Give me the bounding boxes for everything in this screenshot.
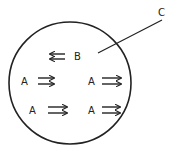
leader-line-c xyxy=(98,20,162,53)
particle-a: A xyxy=(88,76,121,87)
diagram-canvas: C B A A A A xyxy=(0,0,175,160)
label-c: C xyxy=(158,7,165,18)
particle-a: A xyxy=(88,105,120,116)
label-a: A xyxy=(88,76,95,87)
label-a: A xyxy=(29,105,36,116)
label-b: B xyxy=(74,51,81,62)
particle-a: A xyxy=(21,76,54,87)
label-a: A xyxy=(88,105,95,116)
label-a: A xyxy=(21,76,28,87)
particle-b: B xyxy=(50,51,81,62)
particle-a: A xyxy=(29,105,67,116)
